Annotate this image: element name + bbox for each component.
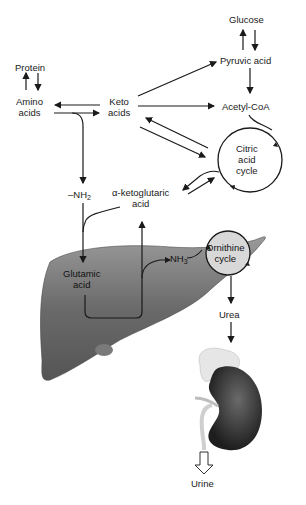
akg-line1: α-ketoglutaric bbox=[112, 187, 169, 198]
citric-line3: cycle bbox=[236, 165, 258, 176]
keto-line2: acids bbox=[108, 107, 130, 118]
amino-line1: Amino bbox=[16, 96, 43, 107]
label-urea: Urea bbox=[219, 309, 240, 320]
keto-line1: Keto bbox=[108, 96, 130, 107]
label-protein: Protein bbox=[15, 62, 45, 73]
akg-line2: acid bbox=[112, 198, 169, 209]
label-acetyl-coa: Acetyl-CoA bbox=[222, 101, 270, 112]
label-ornithine-cycle: Ornithine cycle bbox=[206, 242, 245, 264]
ornithine-line1: Ornithine bbox=[206, 242, 245, 253]
glutamic-line1: Glutamic bbox=[63, 268, 100, 279]
label-keto-acids: Keto acids bbox=[108, 96, 130, 118]
label-amino-acids: Amino acids bbox=[16, 96, 43, 118]
label-nh2: –NH2 bbox=[68, 189, 91, 203]
citric-line2: acid bbox=[236, 154, 258, 165]
metabolism-diagram bbox=[0, 0, 306, 505]
label-citric-acid-cycle: Citric acid cycle bbox=[236, 143, 258, 176]
citric-line1: Citric bbox=[236, 143, 258, 154]
label-pyruvic-acid: Pyruvic acid bbox=[220, 55, 271, 66]
label-glutamic-acid: Glutamic acid bbox=[63, 268, 100, 290]
glutamic-line2: acid bbox=[63, 279, 100, 290]
ureter bbox=[202, 405, 212, 450]
label-glucose: Glucose bbox=[229, 14, 264, 25]
amino-line2: acids bbox=[16, 107, 43, 118]
label-alpha-ketoglutaric-acid: α-ketoglutaric acid bbox=[112, 187, 169, 209]
kidney bbox=[208, 366, 262, 450]
urine-arrow bbox=[195, 452, 213, 474]
label-urine: Urine bbox=[191, 478, 214, 489]
label-nh3: NH3 bbox=[170, 253, 188, 267]
ornithine-line2: cycle bbox=[206, 253, 245, 264]
gallbladder bbox=[95, 344, 113, 356]
